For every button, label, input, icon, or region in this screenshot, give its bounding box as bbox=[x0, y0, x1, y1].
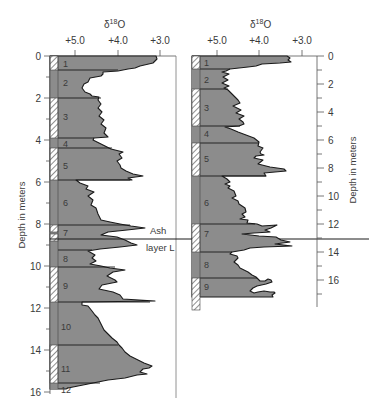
zone-label: 8 bbox=[204, 260, 209, 270]
y-tick-label: 8 bbox=[328, 163, 334, 174]
left-x-tick-label: +3.0 bbox=[150, 35, 170, 46]
left-lithology-column bbox=[50, 56, 58, 389]
right-lithology-column bbox=[192, 56, 200, 310]
y-tick-label: 6 bbox=[35, 177, 41, 188]
right-x-axis-title: δ18O bbox=[250, 18, 271, 30]
zone-label: 3 bbox=[204, 103, 209, 113]
zone-label: 5 bbox=[204, 154, 209, 164]
left-y-tick-labels: 0 2 4 6 8 10 12 14 16 bbox=[30, 51, 42, 398]
zone-label: 12 bbox=[61, 385, 71, 395]
left-profile-area bbox=[50, 56, 157, 389]
y-tick-label: 0 bbox=[328, 51, 334, 62]
zone-label: 4 bbox=[204, 129, 209, 139]
right-y-ticks bbox=[317, 56, 324, 294]
y-tick-label: 6 bbox=[328, 135, 334, 146]
zone-label: 6 bbox=[204, 198, 209, 208]
zone-label: 2 bbox=[63, 78, 68, 88]
zone-label: 7 bbox=[63, 228, 68, 238]
y-tick-label: 12 bbox=[30, 303, 42, 314]
right-x-tick-label: +5.0 bbox=[207, 35, 227, 46]
y-tick-label: 10 bbox=[30, 261, 42, 272]
y-tick-label: 16 bbox=[30, 387, 42, 398]
zone-label: 2 bbox=[204, 75, 209, 85]
right-x-tick-label: +4.0 bbox=[249, 35, 269, 46]
zone-label: 10 bbox=[61, 322, 71, 332]
zone-label: 1 bbox=[63, 59, 68, 69]
y-tick-label: 14 bbox=[328, 247, 340, 258]
right-core-panel: δ18O +5.0 +4.0 +3.0 bbox=[192, 18, 358, 310]
zone-label: 3 bbox=[63, 112, 68, 122]
ash-label-line1: Ash bbox=[150, 225, 166, 236]
y-tick-label: 4 bbox=[328, 107, 334, 118]
y-tick-label: 10 bbox=[328, 191, 340, 202]
zone-label: 4 bbox=[63, 139, 68, 149]
oxygen-isotope-figure: δ18O +5.0 +4.0 +3.0 bbox=[0, 0, 369, 416]
right-y-axis-title: Depth in meters bbox=[347, 136, 358, 203]
right-y-tick-labels: 0 2 4 6 8 10 12 14 16 bbox=[328, 51, 340, 286]
y-tick-label: 4 bbox=[35, 135, 41, 146]
zone-label: 8 bbox=[63, 254, 68, 264]
y-tick-label: 14 bbox=[30, 345, 42, 356]
right-x-tick-label: +3.0 bbox=[292, 35, 312, 46]
zone-label: 1 bbox=[204, 58, 209, 68]
zone-label: 9 bbox=[63, 281, 68, 291]
y-tick-label: 16 bbox=[328, 275, 340, 286]
zone-label: 7 bbox=[204, 229, 209, 239]
left-x-tick-label: +4.0 bbox=[108, 35, 128, 46]
zone-label: 6 bbox=[63, 198, 68, 208]
zone-label: 11 bbox=[61, 364, 70, 374]
y-tick-label: 2 bbox=[35, 93, 41, 104]
ash-label-line2: layer L bbox=[146, 242, 175, 253]
y-tick-label: 0 bbox=[35, 51, 41, 62]
y-tick-label: 8 bbox=[35, 219, 41, 230]
left-y-axis-title: Depth in meters bbox=[16, 181, 27, 248]
left-x-tick-label: +5.0 bbox=[65, 35, 85, 46]
left-x-axis-title: δ18O bbox=[104, 18, 125, 30]
left-core-panel: δ18O +5.0 +4.0 +3.0 bbox=[16, 18, 176, 398]
left-y-ticks bbox=[44, 56, 50, 392]
y-tick-label: 12 bbox=[328, 219, 340, 230]
zone-label: 9 bbox=[204, 282, 209, 292]
y-tick-label: 2 bbox=[328, 79, 334, 90]
zone-label: 5 bbox=[63, 161, 68, 171]
